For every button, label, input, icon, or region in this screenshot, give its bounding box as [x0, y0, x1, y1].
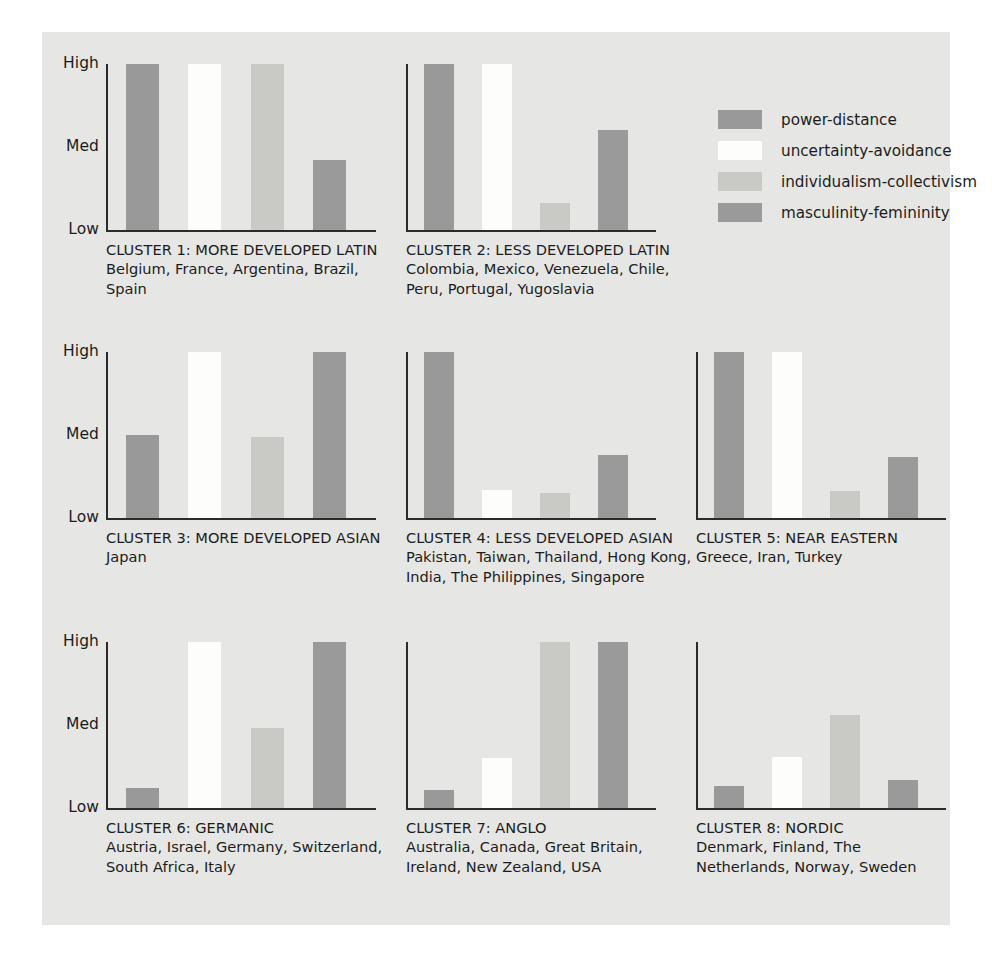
bar-masculinity-femininity [598, 642, 628, 808]
cluster-cell-7: CLUSTER 7: ANGLOAustralia, Canada, Great… [406, 642, 696, 810]
legend-item: uncertainty-avoidance [718, 135, 988, 166]
cluster-members-line: Netherlands, Norway, Sweden [696, 857, 917, 876]
cluster-cell-1: HighMedLowCLUSTER 1: MORE DEVELOPED LATI… [106, 64, 416, 232]
x-axis-line [406, 518, 656, 520]
bar-masculinity-femininity [888, 457, 918, 518]
cluster-members-line: Austria, Israel, Germany, Switzerland, [106, 837, 382, 856]
cluster-members-line: Greece, Iran, Turkey [696, 547, 898, 566]
cluster-cell-4: CLUSTER 4: LESS DEVELOPED ASIANPakistan,… [406, 352, 696, 520]
bar-individualism-collectivism [251, 437, 284, 518]
chart-page: power-distanceuncertainty-avoidanceindiv… [0, 0, 992, 958]
y-axis-tick-low: Low [68, 800, 99, 816]
y-axis-tick-med: Med [66, 139, 99, 155]
legend-swatch-4 [718, 203, 762, 222]
y-axis-tick-high: High [63, 634, 99, 650]
y-axis-tick-high: High [63, 56, 99, 72]
cluster-caption-6: CLUSTER 6: GERMANICAustria, Israel, Germ… [106, 818, 382, 876]
legend-item: masculinity-femininity [718, 197, 988, 228]
cluster-title: CLUSTER 8: NORDIC [696, 818, 917, 837]
cluster-cell-6: HighMedLowCLUSTER 6: GERMANICAustria, Is… [106, 642, 416, 810]
bar-individualism-collectivism [540, 642, 570, 808]
cluster-members-line: South Africa, Italy [106, 857, 382, 876]
cluster-cell-3: HighMedLowCLUSTER 3: MORE DEVELOPED ASIA… [106, 352, 416, 520]
cluster-cell-5: CLUSTER 5: NEAR EASTERNGreece, Iran, Tur… [696, 352, 986, 520]
x-axis-line [106, 518, 376, 520]
cluster-members-line: Japan [106, 547, 380, 566]
bar-uncertainty-avoidance [188, 642, 221, 808]
cluster-members-line: Ireland, New Zealand, USA [406, 857, 643, 876]
y-axis-tick-high: High [63, 344, 99, 360]
cluster-caption-4: CLUSTER 4: LESS DEVELOPED ASIANPakistan,… [406, 528, 691, 586]
cluster-caption-7: CLUSTER 7: ANGLOAustralia, Canada, Great… [406, 818, 643, 876]
y-axis-tick-low: Low [68, 222, 99, 238]
legend-swatch-2 [718, 141, 762, 160]
cluster-members-line: India, The Philippines, Singapore [406, 567, 691, 586]
bar-individualism-collectivism [830, 715, 860, 808]
bar-power-distance [714, 352, 744, 518]
cluster-members-line: Colombia, Mexico, Venezuela, Chile, [406, 259, 670, 278]
bar-masculinity-femininity [888, 780, 918, 808]
legend-label: individualism-collectivism [781, 173, 977, 191]
cluster-caption-3: CLUSTER 3: MORE DEVELOPED ASIANJapan [106, 528, 380, 567]
bar-power-distance [126, 64, 159, 230]
bar-masculinity-femininity [598, 455, 628, 518]
cluster-title: CLUSTER 4: LESS DEVELOPED ASIAN [406, 528, 691, 547]
cluster-caption-1: CLUSTER 1: MORE DEVELOPED LATINBelgium, … [106, 240, 377, 298]
legend-label: masculinity-femininity [781, 204, 950, 222]
cluster-members-line: Australia, Canada, Great Britain, [406, 837, 643, 856]
bar-group [108, 642, 376, 808]
cluster-members-line: Belgium, France, Argentina, Brazil, [106, 259, 377, 278]
bar-uncertainty-avoidance [188, 64, 221, 230]
y-axis-tick-med: Med [66, 427, 99, 443]
bar-power-distance [126, 435, 159, 518]
x-axis-line [106, 230, 376, 232]
bar-uncertainty-avoidance [482, 758, 512, 808]
bar-power-distance [714, 786, 744, 808]
x-axis-line [696, 518, 946, 520]
chart-panel: power-distanceuncertainty-avoidanceindiv… [42, 32, 950, 925]
bar-individualism-collectivism [540, 203, 570, 230]
x-axis-line [106, 808, 376, 810]
bar-masculinity-femininity [598, 130, 628, 230]
bar-uncertainty-avoidance [772, 757, 802, 808]
cluster-plot-5 [696, 352, 946, 520]
cluster-members-line: Peru, Portugal, Yugoslavia [406, 279, 670, 298]
bar-group [108, 64, 376, 230]
bar-group [698, 352, 946, 518]
bar-power-distance [424, 790, 454, 808]
bar-group [698, 642, 946, 808]
legend-item: individualism-collectivism [718, 166, 988, 197]
bar-individualism-collectivism [540, 493, 570, 518]
x-axis-line [696, 808, 946, 810]
cluster-plot-7 [406, 642, 656, 810]
bar-individualism-collectivism [251, 64, 284, 230]
legend-swatch-3 [718, 172, 762, 191]
bar-masculinity-femininity [313, 160, 346, 230]
cluster-title: CLUSTER 1: MORE DEVELOPED LATIN [106, 240, 377, 259]
bar-group [408, 642, 656, 808]
cluster-cell-2: CLUSTER 2: LESS DEVELOPED LATINColombia,… [406, 64, 696, 232]
bar-group [408, 64, 656, 230]
cluster-caption-2: CLUSTER 2: LESS DEVELOPED LATINColombia,… [406, 240, 670, 298]
bar-uncertainty-avoidance [482, 64, 512, 230]
chart-legend: power-distanceuncertainty-avoidanceindiv… [718, 104, 988, 228]
cluster-caption-8: CLUSTER 8: NORDICDenmark, Finland, TheNe… [696, 818, 917, 876]
cluster-plot-6: HighMedLow [106, 642, 376, 810]
cluster-title: CLUSTER 6: GERMANIC [106, 818, 382, 837]
cluster-plot-2 [406, 64, 656, 232]
cluster-title: CLUSTER 5: NEAR EASTERN [696, 528, 898, 547]
bar-uncertainty-avoidance [772, 352, 802, 518]
bar-uncertainty-avoidance [188, 352, 221, 518]
bar-masculinity-femininity [313, 352, 346, 518]
cluster-plot-1: HighMedLow [106, 64, 376, 232]
y-axis-tick-med: Med [66, 717, 99, 733]
bar-group [108, 352, 376, 518]
y-axis-tick-low: Low [68, 510, 99, 526]
cluster-plot-4 [406, 352, 656, 520]
bar-group [408, 352, 656, 518]
cluster-cell-8: CLUSTER 8: NORDICDenmark, Finland, TheNe… [696, 642, 986, 810]
cluster-title: CLUSTER 2: LESS DEVELOPED LATIN [406, 240, 670, 259]
cluster-title: CLUSTER 3: MORE DEVELOPED ASIAN [106, 528, 380, 547]
x-axis-line [406, 230, 656, 232]
legend-label: uncertainty-avoidance [781, 142, 952, 160]
